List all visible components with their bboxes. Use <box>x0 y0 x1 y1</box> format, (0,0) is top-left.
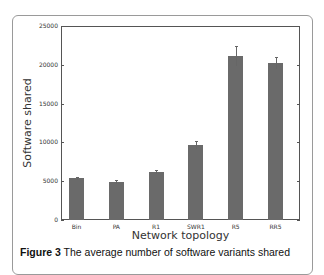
plot-area <box>61 26 300 220</box>
y-axis-label: Software shared <box>21 78 34 167</box>
y-tick-mark <box>61 220 64 221</box>
error-cap <box>275 57 278 58</box>
error-bar <box>196 141 197 149</box>
y-tick-mark <box>61 65 64 66</box>
figure-caption: Figure 3 The average number of software … <box>20 246 290 258</box>
error-bar <box>276 57 277 69</box>
y-tick-mark-right <box>297 65 300 66</box>
y-tick-label: 5000 <box>18 177 58 184</box>
y-tick-label: 0 <box>18 216 58 223</box>
error-cap <box>195 141 198 142</box>
y-tick-mark <box>61 26 64 27</box>
y-tick-mark-right <box>297 104 300 105</box>
bar-pa <box>109 182 124 220</box>
error-cap <box>235 46 238 47</box>
y-tick-label: 20000 <box>18 61 58 68</box>
bar-r5 <box>228 56 243 220</box>
y-tick-mark-right <box>297 181 300 182</box>
caption-text: The average number of software variants … <box>61 246 290 258</box>
bar-rr5 <box>268 63 283 220</box>
y-tick-mark-right <box>297 220 300 221</box>
y-tick-label: 25000 <box>18 22 58 29</box>
bar-bin <box>69 178 84 220</box>
y-tick-mark <box>61 104 64 105</box>
x-axis-label: Network topology <box>61 229 300 242</box>
error-cap <box>155 170 158 171</box>
error-bar <box>236 46 237 66</box>
caption-label: Figure 3 <box>20 246 61 258</box>
y-tick-mark <box>61 142 64 143</box>
error-cap <box>115 180 118 181</box>
y-tick-mark-right <box>297 142 300 143</box>
bar-r1 <box>149 172 164 220</box>
y-tick-mark-right <box>297 26 300 27</box>
bar-swr1 <box>188 145 203 220</box>
y-tick-mark <box>61 181 64 182</box>
error-cap <box>76 177 79 178</box>
